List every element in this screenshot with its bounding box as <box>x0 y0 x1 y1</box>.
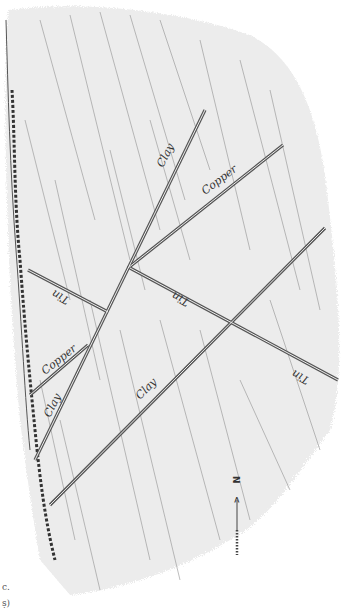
mine-lode-diagram: Clay Copper Tin Tin Tin Clay Copper Clay… <box>0 0 348 610</box>
north-label: N <box>231 476 241 484</box>
corner-mark-1: c. <box>2 582 10 592</box>
corner-mark-2: ṣ) <box>2 598 10 608</box>
